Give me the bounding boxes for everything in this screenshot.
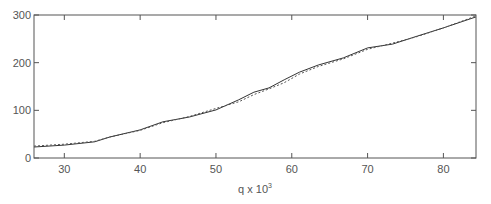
x-tick-label: 40 [134, 163, 146, 175]
x-axis: 304050607080 [58, 15, 449, 175]
x-tick-label: 60 [286, 163, 298, 175]
axes-box [34, 15, 476, 158]
line-chart: 304050607080 0100200300 q x 103 [0, 0, 491, 204]
y-tick-label: 100 [13, 104, 31, 116]
x-tick-label: 80 [437, 163, 449, 175]
y-tick-label: 0 [25, 152, 31, 164]
x-axis-title: q x 103 [238, 182, 272, 195]
x-tick-label: 70 [361, 163, 373, 175]
plot-area [34, 16, 476, 147]
y-axis: 0100200300 [13, 9, 476, 164]
y-tick-label: 200 [13, 57, 31, 69]
x-tick-label: 30 [58, 163, 70, 175]
series-dashed [34, 16, 476, 146]
series-solid [34, 17, 476, 147]
y-tick-label: 300 [13, 9, 31, 21]
x-tick-label: 50 [210, 163, 222, 175]
